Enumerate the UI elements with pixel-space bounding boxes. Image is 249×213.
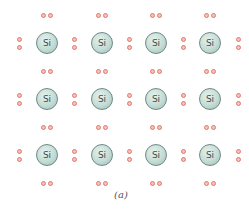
- valence-electron-dot: [236, 101, 241, 106]
- silicon-atom: Si: [145, 144, 167, 166]
- valence-electron-dot: [127, 157, 132, 162]
- valence-electron-dot: [150, 125, 155, 130]
- valence-electron-dot: [17, 45, 22, 50]
- valence-electron-dot: [103, 125, 108, 130]
- atom-label: Si: [43, 150, 51, 160]
- atom-label: Si: [152, 150, 160, 160]
- silicon-atom: Si: [199, 144, 221, 166]
- atom-label: Si: [98, 150, 106, 160]
- valence-electron-dot: [236, 149, 241, 154]
- valence-electron-dot: [48, 69, 53, 74]
- valence-electron-dot: [127, 45, 132, 50]
- valence-electron-dot: [96, 125, 101, 130]
- atom-label: Si: [98, 94, 106, 104]
- valence-electron-dot: [150, 69, 155, 74]
- valence-electron-dot: [181, 93, 186, 98]
- valence-electron-dot: [211, 13, 216, 18]
- atom-label: Si: [43, 38, 51, 48]
- valence-electron-dot: [41, 13, 46, 18]
- silicon-lattice-diagram: SiSiSiSiSiSiSiSiSiSiSiSi: [0, 0, 249, 213]
- valence-electron-dot: [181, 157, 186, 162]
- valence-electron-dot: [48, 181, 53, 186]
- valence-electron-dot: [157, 13, 162, 18]
- silicon-atom: Si: [199, 32, 221, 54]
- atom-label: Si: [43, 94, 51, 104]
- valence-electron-dot: [17, 157, 22, 162]
- valence-electron-dot: [17, 93, 22, 98]
- valence-electron-dot: [72, 157, 77, 162]
- valence-electron-dot: [72, 45, 77, 50]
- silicon-atom: Si: [91, 144, 113, 166]
- figure-caption: (a): [101, 189, 141, 200]
- silicon-atom: Si: [36, 144, 58, 166]
- valence-electron-dot: [204, 69, 209, 74]
- valence-electron-dot: [96, 181, 101, 186]
- valence-electron-dot: [17, 149, 22, 154]
- valence-electron-dot: [236, 93, 241, 98]
- atom-label: Si: [206, 94, 214, 104]
- valence-electron-dot: [204, 181, 209, 186]
- valence-electron-dot: [48, 13, 53, 18]
- valence-electron-dot: [48, 125, 53, 130]
- valence-electron-dot: [41, 69, 46, 74]
- valence-electron-dot: [181, 149, 186, 154]
- atom-label: Si: [206, 38, 214, 48]
- valence-electron-dot: [236, 157, 241, 162]
- silicon-atom: Si: [36, 32, 58, 54]
- valence-electron-dot: [96, 69, 101, 74]
- valence-electron-dot: [181, 101, 186, 106]
- valence-electron-dot: [103, 69, 108, 74]
- valence-electron-dot: [181, 37, 186, 42]
- valence-electron-dot: [41, 125, 46, 130]
- valence-electron-dot: [211, 125, 216, 130]
- valence-electron-dot: [127, 93, 132, 98]
- silicon-atom: Si: [91, 32, 113, 54]
- valence-electron-dot: [72, 93, 77, 98]
- silicon-atom: Si: [145, 32, 167, 54]
- valence-electron-dot: [127, 101, 132, 106]
- valence-electron-dot: [103, 181, 108, 186]
- valence-electron-dot: [150, 13, 155, 18]
- atom-label: Si: [152, 38, 160, 48]
- valence-electron-dot: [157, 125, 162, 130]
- valence-electron-dot: [236, 45, 241, 50]
- atom-label: Si: [98, 38, 106, 48]
- valence-electron-dot: [236, 37, 241, 42]
- valence-electron-dot: [127, 149, 132, 154]
- valence-electron-dot: [72, 37, 77, 42]
- atom-label: Si: [206, 150, 214, 160]
- valence-electron-dot: [150, 181, 155, 186]
- valence-electron-dot: [157, 69, 162, 74]
- silicon-atom: Si: [36, 88, 58, 110]
- valence-electron-dot: [181, 45, 186, 50]
- valence-electron-dot: [17, 37, 22, 42]
- valence-electron-dot: [96, 13, 101, 18]
- valence-electron-dot: [72, 149, 77, 154]
- valence-electron-dot: [204, 125, 209, 130]
- silicon-atom: Si: [91, 88, 113, 110]
- valence-electron-dot: [41, 181, 46, 186]
- silicon-atom: Si: [145, 88, 167, 110]
- silicon-atom: Si: [199, 88, 221, 110]
- valence-electron-dot: [211, 69, 216, 74]
- valence-electron-dot: [204, 13, 209, 18]
- valence-electron-dot: [72, 101, 77, 106]
- valence-electron-dot: [157, 181, 162, 186]
- valence-electron-dot: [127, 37, 132, 42]
- valence-electron-dot: [103, 13, 108, 18]
- atom-label: Si: [152, 94, 160, 104]
- valence-electron-dot: [17, 101, 22, 106]
- valence-electron-dot: [211, 181, 216, 186]
